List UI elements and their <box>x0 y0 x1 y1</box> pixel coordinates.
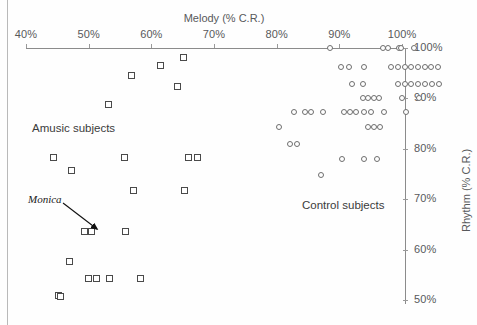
data-point-control <box>422 81 428 87</box>
x-axis-title: Melody (% C.R.) <box>184 12 265 24</box>
data-point-control <box>428 64 434 70</box>
data-point-control <box>376 95 382 101</box>
data-point-control <box>308 109 314 115</box>
data-point-control <box>388 64 394 70</box>
x-axis-tick <box>89 44 90 48</box>
data-point-control <box>287 141 293 147</box>
data-point-amusic <box>50 154 57 161</box>
y-axis-tick-label: 60% <box>414 243 436 255</box>
amusic-subjects-label: Amusic subjects <box>32 122 115 134</box>
data-point-control <box>399 95 405 101</box>
data-point-control <box>349 81 355 87</box>
data-point-control <box>302 109 308 115</box>
data-point-control <box>398 45 404 51</box>
data-point-control <box>429 81 435 87</box>
x-axis-line <box>26 48 405 49</box>
data-point-control <box>360 81 366 87</box>
data-point-amusic <box>185 154 192 161</box>
data-point-control <box>320 109 326 115</box>
data-point-control <box>353 109 359 115</box>
x-axis-tick-label: 40% <box>15 28 37 40</box>
control-subjects-label: Control subjects <box>302 199 384 211</box>
data-point-control <box>415 81 421 87</box>
x-axis-tick-label: 80% <box>265 28 287 40</box>
data-point-control <box>377 124 383 130</box>
scatter-plot-figure: 40%50%60%70%80%90%100%50%60%70%80%90%100… <box>0 0 477 325</box>
data-point-amusic <box>122 228 129 235</box>
data-point-control <box>338 64 344 70</box>
x-axis-tick <box>151 44 152 48</box>
data-point-control <box>403 109 409 115</box>
data-point-control <box>294 141 300 147</box>
data-point-control <box>318 172 324 178</box>
data-point-control <box>415 64 421 70</box>
x-axis-tick-label: 90% <box>328 28 350 40</box>
y-axis-tick-label: 50% <box>414 293 436 305</box>
data-point-amusic <box>181 187 188 194</box>
data-point-control <box>395 81 401 87</box>
x-axis-tick <box>339 44 340 48</box>
y-axis-tick <box>403 199 408 200</box>
y-axis-tick-label: 80% <box>414 142 436 154</box>
x-axis-tick-label: 50% <box>77 28 99 40</box>
x-axis-tick <box>214 44 215 48</box>
y-axis-tick <box>403 300 408 301</box>
data-point-control <box>327 45 333 51</box>
data-point-amusic <box>128 72 135 79</box>
data-point-control <box>339 156 345 162</box>
y-axis-title: Rhythm (% C.R.) <box>460 149 472 232</box>
data-point-control <box>411 45 417 51</box>
data-point-amusic <box>88 228 95 235</box>
data-point-control <box>395 64 401 70</box>
data-point-control <box>361 156 367 162</box>
y-axis-tick <box>403 250 408 251</box>
data-point-amusic <box>174 83 181 90</box>
data-point-amusic <box>57 293 64 300</box>
data-point-control <box>408 64 414 70</box>
data-point-amusic <box>105 101 112 108</box>
data-point-control <box>276 124 282 130</box>
data-point-amusic <box>66 258 73 265</box>
data-point-control <box>402 64 408 70</box>
y-axis-tick-label: 100% <box>414 41 443 53</box>
data-point-amusic <box>137 275 144 282</box>
x-axis-tick <box>277 44 278 48</box>
page-rule-left <box>7 0 8 325</box>
data-point-control <box>385 45 391 51</box>
data-point-amusic <box>157 62 164 69</box>
x-axis-tick <box>26 44 27 48</box>
data-point-amusic <box>130 187 137 194</box>
data-point-control <box>368 109 374 115</box>
y-axis-tick <box>403 149 408 150</box>
data-point-amusic <box>194 154 201 161</box>
data-point-amusic <box>85 275 92 282</box>
data-point-amusic <box>180 54 187 61</box>
data-point-amusic <box>93 275 100 282</box>
x-axis-tick-label: 100% <box>388 28 417 40</box>
data-point-control <box>422 64 428 70</box>
data-point-control <box>381 109 387 115</box>
data-point-control <box>291 109 297 115</box>
data-point-amusic <box>68 167 75 174</box>
data-point-amusic <box>106 275 113 282</box>
data-point-control <box>416 95 422 101</box>
data-point-control <box>408 81 414 87</box>
data-point-control <box>435 64 441 70</box>
x-axis-tick-label: 70% <box>203 28 225 40</box>
data-point-control <box>436 81 442 87</box>
data-point-control <box>402 81 408 87</box>
data-point-control <box>361 109 367 115</box>
data-point-amusic <box>121 154 128 161</box>
data-point-control <box>361 64 367 70</box>
monica-callout-label: Monica <box>28 193 62 205</box>
y-axis-tick-label: 70% <box>414 192 436 204</box>
data-point-control <box>346 64 352 70</box>
data-point-control <box>374 156 380 162</box>
data-point-control <box>365 124 371 130</box>
x-axis-tick-label: 60% <box>140 28 162 40</box>
